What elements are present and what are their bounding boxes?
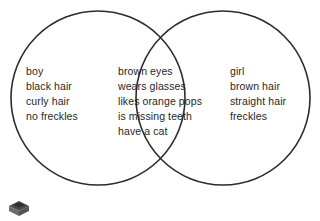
venn-left-item: curly hair (26, 94, 78, 109)
venn-left-only-labels: boy black hair curly hair no freckles (26, 64, 78, 124)
venn-right-item: straight hair (230, 94, 286, 109)
venn-left-item: black hair (26, 79, 78, 94)
box-icon (8, 200, 30, 217)
venn-left-item: no freckles (26, 109, 78, 124)
venn-center-item: is missing teeth (118, 109, 202, 124)
venn-right-item: freckles (230, 109, 286, 124)
venn-left-item: boy (26, 64, 78, 79)
venn-center-item: have a cat (118, 124, 202, 139)
venn-diagram: boy black hair curly hair no freckles br… (0, 0, 320, 221)
venn-right-item: girl (230, 64, 286, 79)
venn-right-item: brown hair (230, 79, 286, 94)
venn-center-item: likes orange pops (118, 94, 202, 109)
venn-right-only-labels: girl brown hair straight hair freckles (230, 64, 286, 124)
venn-center-item: wears glasses (118, 79, 202, 94)
venn-intersection-labels: brown eyes wears glasses likes orange po… (118, 64, 202, 139)
venn-center-item: brown eyes (118, 64, 202, 79)
